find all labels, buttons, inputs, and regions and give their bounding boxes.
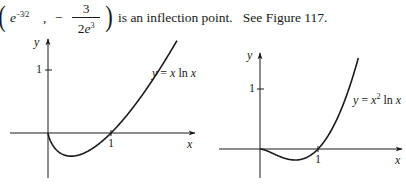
left-graph <box>10 39 195 178</box>
right-curve-label: y = x2 ln x <box>353 92 401 108</box>
figure-canvas <box>0 0 406 187</box>
left-x-axis-label: x <box>187 137 192 152</box>
right-graph <box>219 53 402 178</box>
right-y-axis-label: y <box>247 48 252 63</box>
right-x-axis-label: x <box>395 153 400 168</box>
right-y-tick-label: 1 <box>249 81 255 96</box>
right-x-tick-label: 1 <box>315 152 321 167</box>
left-x-tick-label: 1 <box>108 136 114 151</box>
left-y-axis-label: y <box>34 35 39 50</box>
left-y-tick-label: 1 <box>36 62 42 77</box>
curve-x2-ln-x <box>260 58 358 160</box>
left-curve-label: y = x ln x <box>152 66 196 81</box>
